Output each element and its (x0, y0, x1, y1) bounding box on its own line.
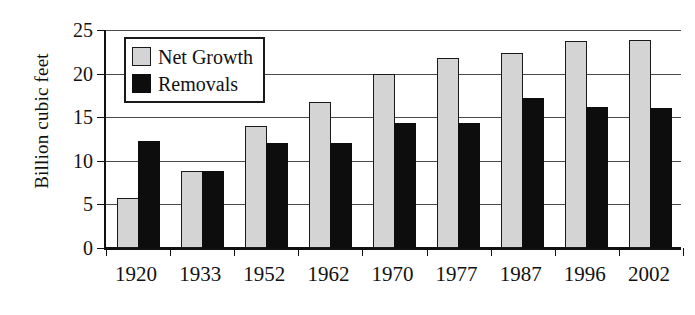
bar-group-2002 (629, 30, 672, 248)
bar-removals-1933 (202, 171, 224, 248)
bar-net-growth-1933 (181, 171, 203, 248)
y-tick-mark-25 (97, 30, 106, 31)
y-tick-label-5: 5 (83, 193, 93, 216)
y-tick-label-25: 25 (73, 19, 93, 42)
x-tick-mark-end (683, 248, 684, 256)
y-tick-mark-5 (97, 204, 106, 205)
y-tick-label-0: 0 (83, 237, 93, 260)
bar-net-growth-1962 (309, 102, 331, 248)
bar-removals-1977 (458, 123, 480, 248)
bar-removals-2002 (650, 108, 672, 248)
legend-label-net-growth: Net Growth (158, 47, 253, 67)
y-tick-label-10: 10 (73, 149, 93, 172)
bar-removals-1952 (266, 143, 288, 248)
bar-net-growth-1987 (501, 53, 523, 248)
bar-group-1962 (309, 30, 352, 248)
x-axis-line (104, 248, 681, 250)
y-tick-label-20: 20 (73, 62, 93, 85)
bar-net-growth-1970 (373, 74, 395, 248)
legend-item-net-growth: Net Growth (132, 43, 253, 70)
bar-net-growth-1996 (565, 41, 587, 248)
bar-removals-1996 (586, 107, 608, 248)
legend-item-removals: Removals (132, 70, 253, 97)
bar-net-growth-1920 (117, 198, 139, 248)
chart-figure: Billion cubic feet 0510152025 Net Growth… (0, 0, 695, 315)
y-tick-mark-15 (97, 117, 106, 118)
y-tick-mark-10 (97, 161, 106, 162)
legend-swatch-net-growth-icon (132, 47, 151, 66)
bar-removals-1970 (394, 123, 416, 248)
bar-net-growth-2002 (629, 40, 651, 248)
bar-removals-1987 (522, 98, 544, 248)
y-axis-title: Billion cubic feet (31, 11, 53, 231)
legend-label-removals: Removals (158, 74, 238, 94)
bar-net-growth-1977 (437, 58, 459, 248)
legend-swatch-removals-icon (132, 74, 151, 93)
bar-group-1970 (373, 30, 416, 248)
bar-group-1977 (437, 30, 480, 248)
chart-legend: Net Growth Removals (124, 37, 265, 103)
bar-group-1996 (565, 30, 608, 248)
y-tick-mark-20 (97, 74, 106, 75)
y-tick-label-15: 15 (73, 106, 93, 129)
bar-removals-1962 (330, 143, 352, 249)
x-tick-label-2002: 2002 (609, 262, 689, 287)
bar-group-1987 (501, 30, 544, 248)
bar-removals-1920 (138, 141, 160, 248)
bar-net-growth-1952 (245, 126, 267, 248)
